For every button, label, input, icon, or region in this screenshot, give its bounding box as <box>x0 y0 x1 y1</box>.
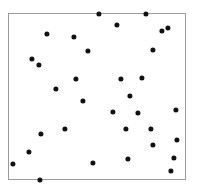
data-point <box>123 126 128 131</box>
data-point <box>90 160 95 165</box>
plot-area <box>8 13 186 180</box>
data-point <box>114 22 119 27</box>
data-point <box>125 156 130 161</box>
data-points-layer <box>8 13 186 180</box>
data-point <box>36 62 41 67</box>
data-point <box>26 149 31 154</box>
data-point <box>10 161 15 166</box>
data-point <box>173 107 178 112</box>
data-point <box>80 98 85 103</box>
data-point <box>139 75 144 80</box>
data-point <box>159 28 164 33</box>
data-point <box>168 168 173 173</box>
data-point <box>37 177 42 182</box>
scatter-plot-figure <box>0 0 200 191</box>
data-point <box>53 86 58 91</box>
data-point <box>135 110 140 115</box>
data-point <box>29 56 34 61</box>
data-point <box>85 48 90 53</box>
data-point <box>118 76 123 81</box>
data-point <box>44 31 49 36</box>
data-point <box>73 76 78 81</box>
data-point <box>148 126 153 131</box>
data-point <box>96 11 101 16</box>
data-point <box>38 131 43 136</box>
data-point <box>165 25 170 30</box>
data-point <box>171 155 176 160</box>
data-point <box>143 11 148 16</box>
data-point <box>71 34 76 39</box>
data-point <box>62 126 67 131</box>
data-point <box>150 142 155 147</box>
data-point <box>174 137 179 142</box>
data-point <box>150 47 155 52</box>
data-point <box>110 109 115 114</box>
data-point <box>127 93 132 98</box>
